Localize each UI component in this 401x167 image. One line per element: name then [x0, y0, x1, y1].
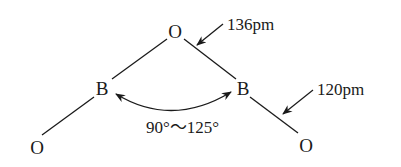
bond-b-right-o-bottom-right	[250, 97, 298, 133]
bond-b-left-o-bottom-left	[42, 97, 94, 135]
bond-o-top-b-right	[184, 39, 236, 79]
atom-b-left: B	[96, 79, 109, 98]
label-bond-length-bridge: 136pm	[227, 16, 274, 33]
angle-arc-arrow	[116, 92, 231, 111]
diagram-canvas: O B B O O 136pm 120pm 90°～125°	[0, 0, 401, 167]
atom-o-bottom-left: O	[30, 138, 44, 157]
arrow-120pm	[283, 90, 313, 114]
label-bond-length-terminal: 120pm	[317, 81, 364, 98]
atom-b-right: B	[237, 79, 250, 98]
label-angle-range: 90°～125°	[146, 119, 219, 136]
arrow-136pm	[197, 24, 223, 45]
bond-o-top-b-left	[112, 39, 167, 79]
atom-o-top: O	[168, 22, 182, 41]
atom-o-bottom-right: O	[299, 136, 313, 155]
